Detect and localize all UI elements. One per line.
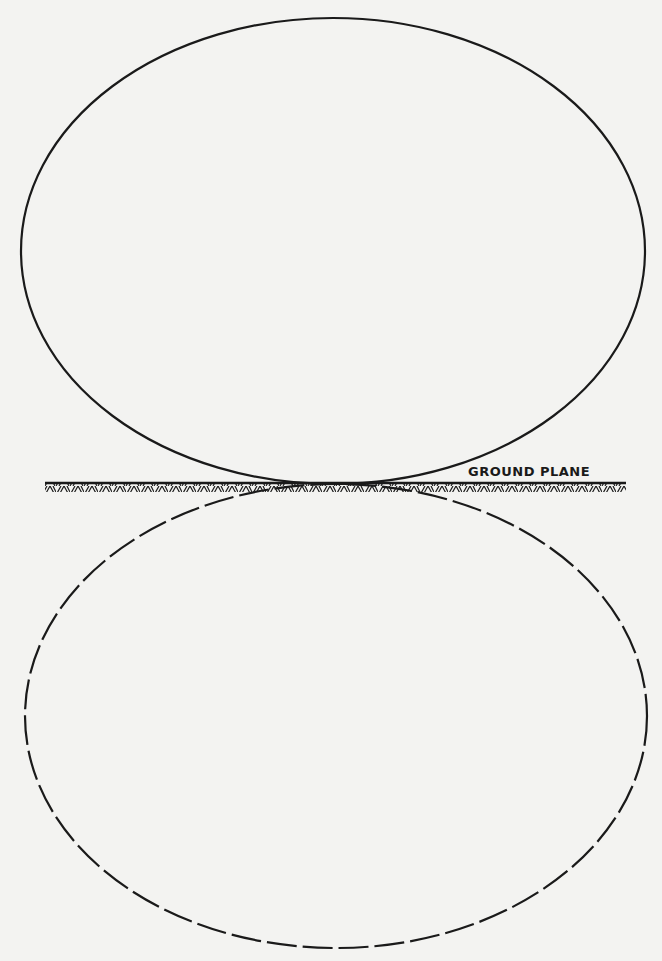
lower-lobe-image <box>25 484 647 948</box>
ground-plane <box>45 483 626 492</box>
ground-plane-label: GROUND PLANE <box>468 464 590 479</box>
upper-lobe <box>21 18 645 484</box>
radiation-pattern-diagram: GROUND PLANE <box>0 0 662 961</box>
